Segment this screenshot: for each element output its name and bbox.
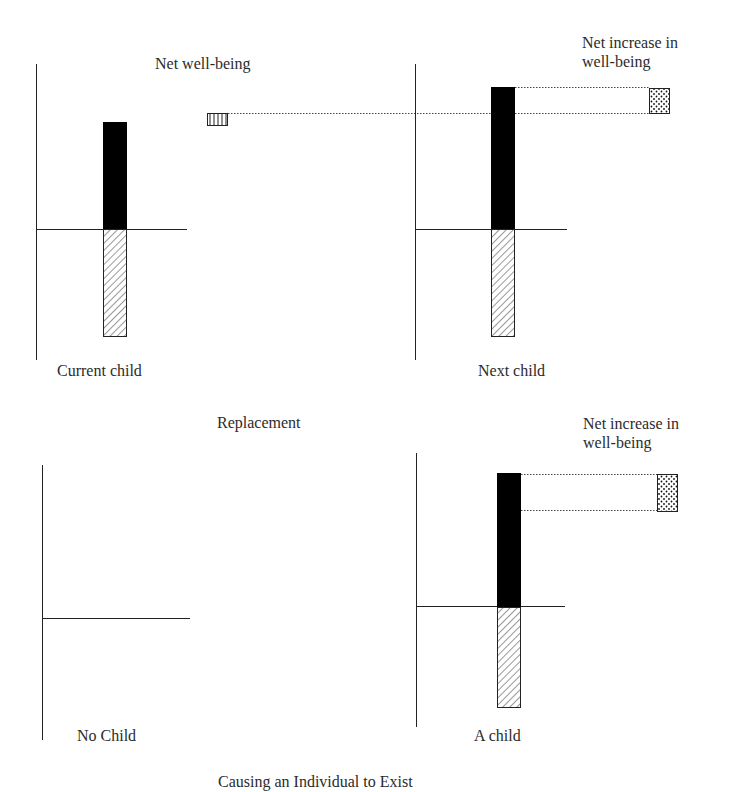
net-increase-marker bbox=[658, 475, 678, 512]
replacement-caption: Replacement bbox=[217, 413, 301, 432]
no-child-label: No Child bbox=[77, 726, 136, 745]
causing-individual-caption: Causing an Individual to Exist bbox=[218, 772, 413, 791]
current-child-label: Current child bbox=[57, 361, 142, 380]
net-increase-label-bottom: Net increase in well-being bbox=[583, 414, 679, 452]
negative-bar bbox=[492, 230, 515, 337]
net-increase-marker bbox=[650, 89, 670, 114]
next-child-label: Next child bbox=[478, 361, 545, 380]
a-child-label: A child bbox=[474, 726, 521, 745]
negative-bar bbox=[104, 230, 127, 337]
positive-bar bbox=[103, 122, 127, 229]
diagram-canvas bbox=[0, 0, 746, 792]
panel-no-child bbox=[42, 465, 190, 740]
negative-bar bbox=[498, 608, 521, 708]
panel-current-child bbox=[36, 64, 491, 360]
panel-a-child bbox=[416, 453, 678, 727]
net-wellbeing-label: Net well-being bbox=[155, 54, 251, 73]
net-wellbeing-marker bbox=[208, 114, 228, 126]
panel-next-child bbox=[415, 64, 670, 360]
net-increase-label-top: Net increase in well-being bbox=[582, 33, 678, 71]
positive-bar bbox=[497, 473, 521, 607]
positive-bar bbox=[491, 87, 515, 229]
